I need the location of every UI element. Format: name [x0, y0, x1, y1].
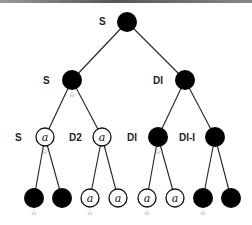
tree-edges: [34, 22, 231, 198]
filled-circle-icon: [52, 188, 72, 208]
node-glyph: a: [115, 192, 122, 205]
filled-node: [175, 70, 195, 90]
filled-node: ☆: [148, 127, 168, 156]
star-marker-icon: ☆: [200, 209, 206, 217]
filled-node: [221, 188, 241, 208]
node-glyph: a: [42, 131, 49, 144]
filled-circle-icon: [193, 188, 213, 208]
node-label: S: [99, 16, 106, 27]
node-glyph: a: [172, 192, 179, 205]
filled-circle-icon: [117, 12, 137, 32]
open-node: a: [93, 128, 111, 146]
open-node: a: [166, 189, 184, 207]
star-marker-icon: ☆: [31, 209, 37, 217]
node-label: DI: [153, 75, 163, 86]
tree-nodes: ☆a☆a☆☆a☆aa☆a☆: [24, 12, 241, 217]
node-label: D2: [69, 132, 82, 143]
star-marker-icon: ☆: [42, 148, 48, 156]
filled-circle-icon: [175, 70, 195, 90]
node-glyph: a: [99, 131, 106, 144]
star-marker-icon: ☆: [155, 148, 161, 156]
star-marker-icon: ☆: [69, 91, 75, 99]
filled-node: [117, 12, 137, 32]
filled-node: ☆: [24, 188, 44, 217]
open-node: a: [109, 189, 127, 207]
tree-diagram: ☆a☆a☆☆a☆aa☆a☆ SSDISD2DIDI-I: [0, 0, 252, 225]
tree-edge: [72, 22, 127, 80]
node-labels: SSDISD2DIDI-I: [15, 16, 195, 143]
node-label: DI: [127, 132, 137, 143]
open-node: a☆: [81, 189, 99, 217]
filled-node: [205, 127, 225, 147]
filled-circle-icon: [148, 127, 168, 147]
tree-edge: [127, 22, 185, 80]
filled-circle-icon: [62, 70, 82, 90]
star-marker-icon: ☆: [87, 209, 93, 217]
filled-node: ☆: [193, 188, 213, 217]
open-node: a☆: [36, 128, 54, 156]
filled-circle-icon: [205, 127, 225, 147]
filled-node: [52, 188, 72, 208]
filled-circle-icon: [221, 188, 241, 208]
node-label: DI-I: [179, 132, 195, 143]
node-glyph: a: [87, 192, 94, 205]
node-label: S: [43, 75, 50, 86]
open-node: a☆: [138, 189, 156, 217]
node-glyph: a: [144, 192, 151, 205]
filled-circle-icon: [24, 188, 44, 208]
star-marker-icon: ☆: [144, 209, 150, 217]
node-label: S: [15, 132, 22, 143]
